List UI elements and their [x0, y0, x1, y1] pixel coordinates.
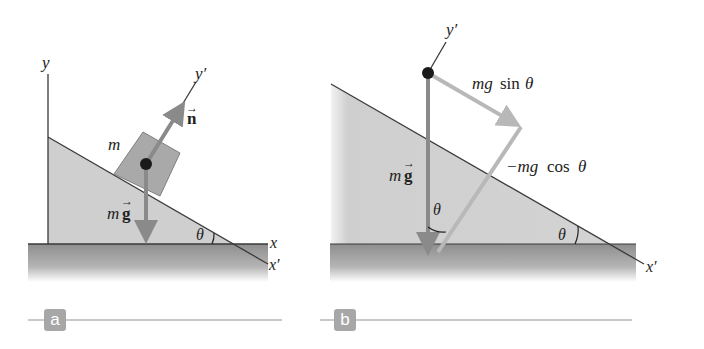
panel-a-badge: a	[44, 309, 66, 331]
mass-label: m	[108, 135, 120, 154]
perpendicular-angle: θ	[578, 157, 586, 176]
gravity-vector-arrow-b: →	[403, 156, 415, 170]
x-prime-axis-label-a: x′	[268, 256, 280, 273]
center-of-mass-dot-a	[140, 158, 152, 170]
panel-a: y y′ x x′ m n → m g → θ	[28, 53, 280, 282]
parallel-prefix: mg	[472, 74, 493, 93]
panel-a-caption-rule	[28, 319, 282, 321]
y-axis-label-a: y	[40, 53, 50, 72]
perpendicular-prefix: −mg	[506, 157, 538, 176]
center-of-mass-dot-b	[422, 67, 434, 79]
angle-label-vertical-b: θ	[433, 201, 441, 218]
panel-b-badge: b	[334, 309, 356, 331]
y-prime-axis-label-b: y′	[444, 20, 458, 39]
angle-label-a: θ	[196, 226, 204, 243]
y-prime-axis-label-a: y′	[193, 64, 207, 83]
panel-b-caption-rule	[320, 319, 632, 321]
perpendicular-func: cos	[547, 157, 570, 176]
parallel-component-label: mg sin θ	[472, 74, 533, 93]
angle-label-incline-b: θ	[558, 226, 566, 243]
gravity-mass-label-a: m	[107, 204, 119, 223]
x-axis-label-a: x	[269, 234, 277, 251]
gravity-vector-arrow-a: →	[121, 194, 133, 208]
parallel-angle: θ	[525, 74, 533, 93]
gravity-mass-label-b: m	[389, 166, 401, 185]
inclined-plane-figure: y y′ x x′ m n → m g → θ y′ x′	[0, 0, 704, 349]
x-prime-axis-label-b: x′	[645, 258, 657, 275]
normal-force-vector-arrow: →	[186, 101, 198, 115]
parallel-func: sin	[500, 74, 520, 93]
perpendicular-component-label: −mg cos θ	[506, 157, 586, 176]
ground-b	[330, 244, 636, 282]
ground-a	[28, 244, 268, 282]
panel-b: y′ x′ mg sin θ −mg cos θ m g → θ θ	[330, 20, 657, 282]
